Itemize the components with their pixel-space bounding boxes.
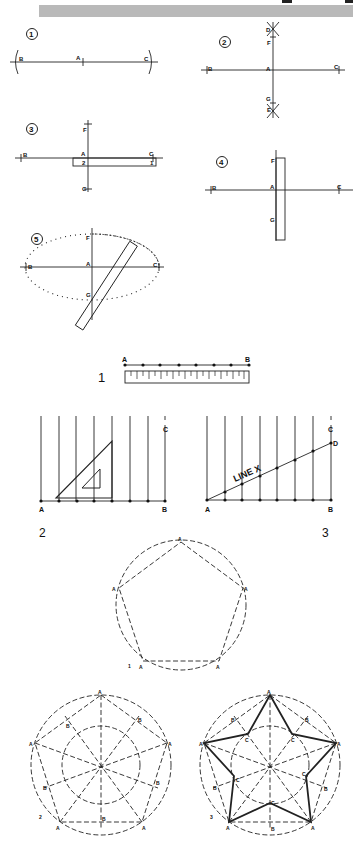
inner-point-label: C [271, 800, 275, 806]
pentagon-2-diagram [31, 695, 171, 835]
point-label: A [86, 261, 91, 267]
vertex-label: A [56, 825, 60, 831]
midpoint-label: B [213, 785, 217, 791]
point-label: F [83, 127, 87, 133]
point-label: C [153, 262, 158, 268]
step-2-diagram [201, 22, 345, 118]
inner-point-label: C [236, 777, 240, 783]
point-label: G [266, 96, 271, 102]
step-3-diagram [15, 120, 163, 192]
drawing-canvas: 1 B A C 2 B A C D F G E 3 B A C F G 2 1 … [0, 0, 353, 844]
vertex-label: A [98, 689, 102, 695]
point-label: D [266, 27, 271, 33]
point-label: B [212, 185, 217, 191]
set-square-diagram [39, 416, 166, 503]
point-label: C [149, 151, 154, 157]
midpoint-label: B [271, 826, 275, 832]
point-label: B [23, 152, 28, 158]
line-division-diagram [205, 416, 332, 502]
step-number: 4 [219, 158, 224, 167]
step-5-diagram [20, 228, 164, 330]
vertex-label: A [142, 825, 146, 831]
step-number: 1 [29, 30, 34, 39]
inner-point-label: C [291, 737, 295, 743]
midpoint-label: B [324, 786, 328, 792]
midpoint-label: B [305, 717, 309, 723]
mark-label: 2 [82, 160, 86, 166]
point-label: C [163, 426, 168, 433]
step-number: 5 [34, 235, 39, 244]
panel-number: 2 [39, 814, 42, 820]
point-label: A [39, 506, 44, 513]
step-4-diagram [205, 150, 353, 241]
panel-number: 2 [39, 526, 46, 540]
vertex-label: A [112, 586, 116, 592]
point-label: F [267, 40, 271, 46]
vertex-label: A [178, 536, 182, 542]
point-label: B [28, 264, 33, 270]
point-label: G [86, 292, 91, 298]
point-label: C [328, 426, 333, 433]
midpoint-label: B [138, 717, 142, 723]
point-label: A [266, 66, 271, 72]
point-label: B [328, 506, 333, 513]
step-number: 2 [222, 38, 227, 47]
point-label: G [270, 217, 275, 223]
point-label: C [144, 56, 149, 62]
midpoint-label: B [66, 723, 70, 729]
point-label: C [334, 64, 339, 70]
point-label: A [270, 184, 275, 190]
vertex-label: A [337, 741, 341, 747]
point-label: D [333, 440, 338, 447]
midpoint-label: B [102, 816, 106, 822]
vertex-label: A [267, 689, 271, 695]
point-label: B [162, 506, 167, 513]
step-number: 3 [29, 125, 34, 134]
vertex-label: A [311, 825, 315, 831]
vertex-label: A [29, 741, 33, 747]
midpoint-label: B [231, 717, 235, 723]
point-label: F [271, 158, 275, 164]
point-label: G [82, 186, 87, 192]
point-label: B [208, 66, 213, 72]
inner-point-label: C [302, 771, 306, 777]
vertex-label: A [226, 825, 230, 831]
vertex-label: A [168, 741, 172, 747]
panel-number: 3 [210, 814, 213, 820]
pentagon-3-diagram [200, 695, 340, 835]
inner-point-label: C [245, 737, 249, 743]
point-label: E [267, 107, 271, 113]
point-label: A [205, 506, 210, 513]
panel-number: 1 [98, 370, 105, 385]
point-label: A [81, 151, 86, 157]
vertex-label: A [199, 741, 203, 747]
midpoint-label: B [43, 785, 47, 791]
pentagon-1-diagram [116, 540, 246, 670]
point-label: A [122, 356, 127, 363]
point-label: A [76, 55, 81, 61]
point-label: B [245, 356, 250, 363]
point-label: B [19, 56, 24, 62]
panel-number: 1 [128, 663, 131, 669]
line-x-label: LINE X [232, 463, 263, 484]
point-label: F [86, 235, 90, 241]
point-label: C [337, 184, 342, 190]
vertex-label: A [244, 586, 248, 592]
midpoint-label: B [156, 780, 160, 786]
vertex-label: A [216, 664, 220, 670]
panel-number: 3 [322, 526, 329, 540]
ruler-diagram [123, 363, 250, 383]
vertex-label: A [139, 664, 143, 670]
